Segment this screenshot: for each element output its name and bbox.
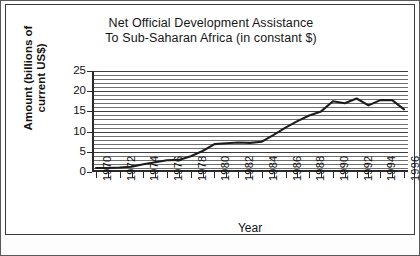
x-tick bbox=[262, 172, 263, 178]
chart-title-line2: To Sub-Saharan Africa (in constant $) bbox=[6, 31, 416, 46]
y-axis-title-line2: current US$) bbox=[35, 3, 48, 153]
x-tick bbox=[96, 172, 97, 178]
x-tick bbox=[143, 172, 144, 178]
x-tick bbox=[357, 172, 358, 178]
x-tick bbox=[380, 172, 381, 178]
chart-figure: Net Official Development Assistance To S… bbox=[0, 0, 420, 256]
x-tick bbox=[167, 172, 168, 178]
y-tick bbox=[87, 172, 92, 173]
y-tick-label: 5 bbox=[60, 145, 86, 157]
x-tick bbox=[191, 172, 192, 178]
x-tick bbox=[404, 172, 405, 178]
x-tick bbox=[333, 172, 334, 178]
y-tick-label: 10 bbox=[60, 125, 86, 137]
x-tick bbox=[120, 172, 121, 178]
y-tick-label: 20 bbox=[60, 84, 86, 96]
y-axis-title-line1: Amount (billions of bbox=[22, 3, 35, 153]
x-axis-title: Year bbox=[92, 221, 408, 235]
x-tick-label: 1996 bbox=[409, 156, 420, 181]
chart-title: Net Official Development Assistance To S… bbox=[6, 16, 416, 45]
chart-frame: Net Official Development Assistance To S… bbox=[5, 4, 415, 235]
data-line-series bbox=[92, 71, 408, 172]
plot-area: 0510152025 19701972197419761978198019821… bbox=[92, 71, 408, 172]
y-tick-label: 15 bbox=[60, 104, 86, 116]
chart-title-line1: Net Official Development Assistance bbox=[109, 16, 314, 30]
y-tick-label: 0 bbox=[60, 165, 86, 177]
x-tick bbox=[214, 172, 215, 178]
x-tick bbox=[309, 172, 310, 178]
y-tick-label: 25 bbox=[60, 64, 86, 76]
y-axis-title: Amount (billions of current US$) bbox=[22, 3, 48, 153]
x-tick bbox=[286, 172, 287, 178]
x-tick bbox=[238, 172, 239, 178]
